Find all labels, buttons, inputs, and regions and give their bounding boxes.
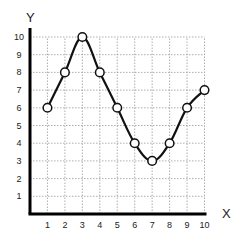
y-tick-label: 9 xyxy=(16,50,21,60)
y-tick-label: 6 xyxy=(16,103,21,113)
data-markers xyxy=(43,33,209,166)
y-tick-label: 1 xyxy=(16,191,21,201)
data-point-marker xyxy=(61,68,70,77)
x-tick-label: 9 xyxy=(185,220,190,230)
data-point-marker xyxy=(78,33,87,42)
x-tick-label: 7 xyxy=(150,220,155,230)
y-tick-label: 10 xyxy=(14,32,24,42)
data-point-marker xyxy=(96,68,105,77)
x-tick-label: 4 xyxy=(97,220,102,230)
y-tick-label: 2 xyxy=(16,174,21,184)
x-tick-label: 6 xyxy=(132,220,137,230)
x-tick-label: 2 xyxy=(62,220,67,230)
x-tick-label: 8 xyxy=(167,220,172,230)
y-axis-label: Y xyxy=(26,10,35,25)
y-tick-label: 4 xyxy=(16,138,21,148)
data-point-marker xyxy=(165,139,174,148)
x-tick-label: 3 xyxy=(80,220,85,230)
y-tick-label: 8 xyxy=(16,67,21,77)
data-point-marker xyxy=(113,104,122,113)
tick-labels: 1234567891012345678910 xyxy=(14,32,210,230)
line-chart: 1234567891012345678910 X Y xyxy=(0,0,239,237)
data-point-marker xyxy=(43,104,52,113)
data-point-marker xyxy=(200,86,209,95)
x-axis-label: X xyxy=(222,206,231,221)
data-line xyxy=(47,37,204,161)
y-tick-label: 3 xyxy=(16,156,21,166)
data-point-marker xyxy=(130,139,139,148)
y-tick-label: 5 xyxy=(16,121,21,131)
data-point-marker xyxy=(183,104,192,113)
data-point-marker xyxy=(148,157,157,166)
y-tick-label: 7 xyxy=(16,85,21,95)
x-tick-label: 5 xyxy=(115,220,120,230)
x-tick-label: 1 xyxy=(45,220,50,230)
x-tick-label: 10 xyxy=(199,220,209,230)
